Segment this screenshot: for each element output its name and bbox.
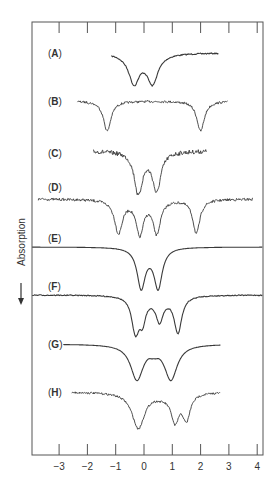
spectrum-label-c: (C) bbox=[48, 148, 62, 159]
tick-label: −2 bbox=[82, 461, 94, 472]
spectrum-h bbox=[72, 392, 220, 429]
x-tick-labels: −3−2−101234 bbox=[53, 461, 260, 472]
tick-label: 3 bbox=[226, 461, 232, 472]
spectrum-label-e: (E) bbox=[48, 233, 61, 244]
spectrum-label-b: (B) bbox=[48, 96, 62, 107]
spectrum-label-d: (D) bbox=[48, 182, 62, 193]
y-axis-label: Absorption bbox=[16, 218, 27, 305]
spectrum-b bbox=[78, 101, 228, 132]
spectrum-label-h: (H) bbox=[48, 387, 62, 398]
spectrum-g bbox=[63, 345, 220, 381]
spectrum-labels: (A)(B)(C)(D)(E)(F)(G)(H) bbox=[48, 48, 62, 398]
mossbauer-spectra-chart: −3−2−101234 (A)(B)(C)(D)(E)(F)(G)(H) Abs… bbox=[0, 0, 279, 488]
spectrum-label-a: (A) bbox=[48, 48, 62, 59]
tick-label: −3 bbox=[53, 461, 65, 472]
tick-label: 2 bbox=[198, 461, 204, 472]
tick-label: 0 bbox=[141, 461, 147, 472]
tick-label: −1 bbox=[110, 461, 122, 472]
spectrum-label-g: (G) bbox=[48, 339, 62, 350]
spectrum-e bbox=[32, 247, 262, 290]
tick-label: 4 bbox=[254, 461, 260, 472]
absorption-label: Absorption bbox=[16, 218, 27, 266]
spectrum-label-f: (F) bbox=[48, 281, 61, 292]
top-ticks bbox=[59, 22, 257, 33]
spectrum-f bbox=[32, 295, 262, 337]
arrow-head-icon bbox=[18, 298, 24, 305]
spectra-group bbox=[32, 53, 262, 429]
spectrum-c bbox=[93, 150, 206, 195]
bottom-ticks bbox=[59, 444, 257, 455]
spectrum-d bbox=[38, 198, 253, 238]
tick-label: 1 bbox=[170, 461, 176, 472]
plot-frame bbox=[32, 22, 263, 455]
spectrum-a bbox=[112, 53, 219, 86]
